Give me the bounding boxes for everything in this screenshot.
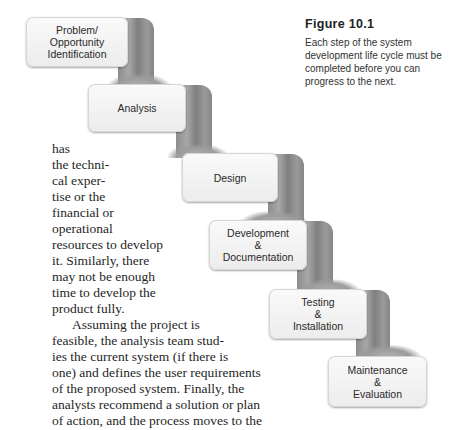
body-line: of action, and the process moves to the: [52, 413, 262, 429]
body-line: product fully.: [52, 301, 125, 317]
body-line: has: [52, 141, 70, 157]
body-line: may not be enough: [52, 269, 155, 285]
body-line: it. Similarly, there: [52, 253, 149, 269]
step-development-documentation: Development & Documentation: [209, 220, 307, 270]
body-line: resources to develop: [52, 237, 163, 253]
step-problem-identification: Problem/ Opportunity Identification: [26, 17, 128, 67]
step-analysis: Analysis: [88, 84, 186, 132]
body-line: cal exper-: [52, 173, 105, 189]
body-line: time to develop the: [52, 285, 156, 301]
step-design: Design: [182, 153, 278, 202]
figure-title: Figure 10.1: [305, 17, 445, 31]
body-line: one) and defines the user requirements: [52, 365, 261, 381]
step-testing-installation: Testing & Installation: [269, 289, 367, 339]
body-line: ies the current system (if there is: [52, 349, 228, 365]
body-line: analysts recommend a solution or plan: [52, 397, 260, 413]
body-line: operational: [52, 221, 113, 237]
body-line: tise or the: [52, 189, 105, 205]
body-line: of the proposed system. Finally, the: [52, 381, 244, 397]
figure-caption-text: Each step of the system development life…: [305, 36, 445, 88]
body-line: the techni-: [52, 157, 109, 173]
body-line: feasible, the analysis team stud-: [52, 333, 224, 349]
step-maintenance-evaluation: Maintenance & Evaluation: [328, 356, 427, 407]
body-line: Assuming the project is: [72, 317, 200, 333]
figure-caption: Figure 10.1 Each step of the system deve…: [305, 17, 445, 88]
body-line: financial or: [52, 205, 114, 221]
